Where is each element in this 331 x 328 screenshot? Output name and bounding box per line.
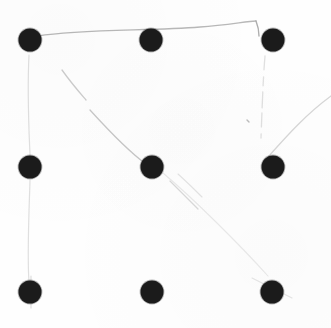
dot-center — [141, 156, 164, 179]
dot-bottom-center — [141, 281, 164, 304]
dot-top-right — [262, 29, 285, 52]
dot-bottom-right — [261, 281, 284, 304]
scan-drawing-surface — [0, 0, 331, 328]
dot-top-left — [19, 29, 42, 52]
dot-middle-left — [19, 156, 42, 179]
dot-bottom-left — [19, 281, 42, 304]
dot-top-center — [140, 29, 163, 52]
sketch-canvas — [0, 0, 331, 328]
dot-middle-right — [262, 156, 285, 179]
